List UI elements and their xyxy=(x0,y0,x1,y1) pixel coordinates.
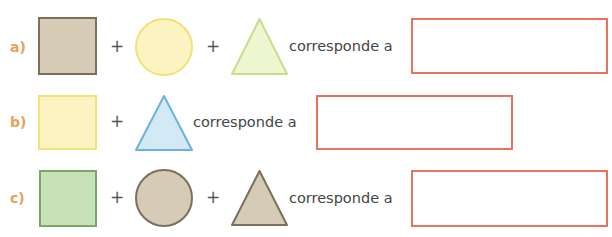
answer-box-c[interactable] xyxy=(411,170,608,227)
triangle-shape-blue xyxy=(135,95,193,151)
answer-input-a[interactable] xyxy=(413,20,606,72)
circle-shape-yellow xyxy=(135,18,193,76)
circle-shape-brown xyxy=(135,169,193,227)
item-label-b: b) xyxy=(10,115,26,129)
square-shape-green xyxy=(39,170,97,227)
item-label-c: c) xyxy=(10,191,25,205)
plus-sign: + xyxy=(110,38,124,55)
plus-sign: + xyxy=(206,189,220,206)
connector-text: corresponde a xyxy=(289,191,393,206)
plus-sign: + xyxy=(110,189,124,206)
item-label-a: a) xyxy=(10,40,26,54)
answer-box-a[interactable] xyxy=(411,18,608,74)
square-shape-yellow xyxy=(38,95,97,150)
connector-text: corresponde a xyxy=(289,39,393,54)
triangle-shape-brown xyxy=(231,170,288,226)
plus-sign: + xyxy=(206,38,220,55)
answer-input-b[interactable] xyxy=(318,97,511,148)
connector-text: corresponde a xyxy=(193,115,297,130)
plus-sign: + xyxy=(110,113,124,130)
answer-box-b[interactable] xyxy=(316,95,513,150)
triangle-shape-light-green xyxy=(231,18,288,75)
answer-input-c[interactable] xyxy=(413,172,606,225)
square-shape-brown xyxy=(38,17,97,75)
